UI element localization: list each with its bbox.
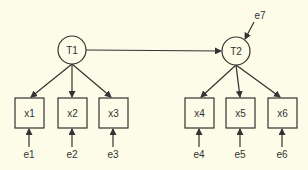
loading-t2-x4 — [201, 65, 236, 97]
path-t1-t2 — [86, 50, 221, 51]
observed-node-x5: x5 — [226, 98, 255, 128]
loading-t2-x5 — [236, 65, 240, 97]
observed-label: x1 — [24, 108, 35, 119]
observed-node-x6: x6 — [268, 98, 297, 128]
observed-node-x4: x4 — [185, 98, 214, 128]
error-label-e2: e2 — [66, 149, 78, 160]
observed-node-x2: x2 — [58, 98, 87, 128]
loading-t1-x1 — [31, 64, 72, 97]
latent-label: T2 — [230, 46, 242, 57]
error-label-e4: e4 — [193, 149, 205, 160]
observed-label: x6 — [277, 108, 288, 119]
sem-diagram: T1 T2 x1 x2 x3 x4 x5 x6 e1 e2 e3 e4 e5 e… — [0, 0, 308, 170]
latent-node-t1: T1 — [58, 36, 86, 64]
path-e7-t2 — [245, 22, 254, 39]
observed-label: x3 — [108, 108, 119, 119]
observed-label: x5 — [235, 108, 246, 119]
observed-node-x3: x3 — [99, 98, 128, 128]
error-label-e5: e5 — [234, 149, 246, 160]
latent-node-t2: T2 — [222, 37, 250, 65]
observed-label: x4 — [194, 108, 205, 119]
error-label-e3: e3 — [107, 149, 119, 160]
error-label-e1: e1 — [23, 149, 35, 160]
loading-t2-x6 — [236, 65, 280, 97]
latent-label: T1 — [66, 45, 78, 56]
observed-node-x1: x1 — [15, 98, 44, 128]
loading-t1-x3 — [72, 64, 111, 97]
error-label-e7: e7 — [254, 10, 266, 21]
error-label-e6: e6 — [276, 149, 288, 160]
observed-label: x2 — [67, 108, 78, 119]
